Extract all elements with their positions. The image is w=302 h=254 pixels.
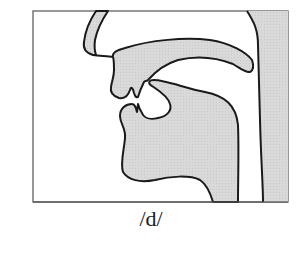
frame-bottom-edge xyxy=(33,201,288,202)
phoneme-caption: /d/ xyxy=(0,206,302,232)
